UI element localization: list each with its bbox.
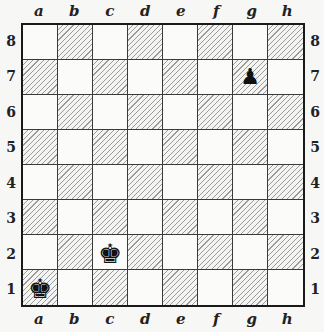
- black-king-icon[interactable]: ♚: [28, 275, 52, 302]
- square-b6[interactable]: [58, 95, 93, 130]
- rank-label: 4: [307, 165, 323, 201]
- square-h6[interactable]: [268, 95, 303, 130]
- chess-board: ♟♚♚: [21, 23, 305, 307]
- square-g2[interactable]: [233, 235, 268, 270]
- square-f5[interactable]: [198, 130, 233, 165]
- square-e3[interactable]: [163, 200, 198, 235]
- square-e5[interactable]: [163, 130, 198, 165]
- square-h7[interactable]: [268, 60, 303, 95]
- file-label: d: [128, 2, 164, 20]
- file-labels-top: a b c d e f g h: [21, 2, 305, 20]
- rank-label: 2: [3, 236, 19, 272]
- file-label: h: [270, 2, 306, 20]
- square-a8[interactable]: [23, 25, 58, 60]
- square-c8[interactable]: [93, 25, 128, 60]
- square-h8[interactable]: [268, 25, 303, 60]
- rank-labels-left: 8 7 6 5 4 3 2 1: [3, 23, 19, 307]
- square-g4[interactable]: [233, 165, 268, 200]
- file-label: h: [270, 310, 306, 328]
- square-b4[interactable]: [58, 165, 93, 200]
- square-b1[interactable]: [58, 270, 93, 305]
- file-label: c: [92, 310, 128, 328]
- file-label: c: [92, 2, 128, 20]
- file-label: g: [234, 310, 270, 328]
- square-b5[interactable]: [58, 130, 93, 165]
- square-e7[interactable]: [163, 60, 198, 95]
- file-label: a: [21, 2, 57, 20]
- black-pawn-icon[interactable]: ♟: [240, 66, 260, 88]
- file-label: f: [199, 310, 235, 328]
- file-label: e: [163, 310, 199, 328]
- square-d5[interactable]: [128, 130, 163, 165]
- square-f7[interactable]: [198, 60, 233, 95]
- black-king-icon[interactable]: ♚: [98, 240, 122, 267]
- square-d1[interactable]: [128, 270, 163, 305]
- square-g3[interactable]: [233, 200, 268, 235]
- square-a2[interactable]: [23, 235, 58, 270]
- rank-label: 3: [3, 201, 19, 237]
- rank-label: 2: [307, 236, 323, 272]
- square-d3[interactable]: [128, 200, 163, 235]
- square-a3[interactable]: [23, 200, 58, 235]
- square-f8[interactable]: [198, 25, 233, 60]
- file-label: b: [57, 310, 93, 328]
- file-label: a: [21, 310, 57, 328]
- square-b3[interactable]: [58, 200, 93, 235]
- square-g6[interactable]: [233, 95, 268, 130]
- rank-label: 6: [307, 94, 323, 130]
- square-h4[interactable]: [268, 165, 303, 200]
- square-c1[interactable]: [93, 270, 128, 305]
- square-b2[interactable]: [58, 235, 93, 270]
- square-a1[interactable]: ♚: [23, 270, 58, 305]
- square-d2[interactable]: [128, 235, 163, 270]
- square-h3[interactable]: [268, 200, 303, 235]
- square-c3[interactable]: [93, 200, 128, 235]
- square-g8[interactable]: [233, 25, 268, 60]
- square-g5[interactable]: [233, 130, 268, 165]
- square-f2[interactable]: [198, 235, 233, 270]
- square-h5[interactable]: [268, 130, 303, 165]
- square-h1[interactable]: [268, 270, 303, 305]
- file-label: f: [199, 2, 235, 20]
- square-e6[interactable]: [163, 95, 198, 130]
- file-label: e: [163, 2, 199, 20]
- square-g1[interactable]: [233, 270, 268, 305]
- rank-label: 1: [3, 272, 19, 308]
- file-label: d: [128, 310, 164, 328]
- square-c4[interactable]: [93, 165, 128, 200]
- square-f1[interactable]: [198, 270, 233, 305]
- rank-label: 1: [307, 272, 323, 308]
- square-f6[interactable]: [198, 95, 233, 130]
- square-e2[interactable]: [163, 235, 198, 270]
- square-e1[interactable]: [163, 270, 198, 305]
- square-e4[interactable]: [163, 165, 198, 200]
- rank-label: 7: [307, 59, 323, 95]
- square-a7[interactable]: [23, 60, 58, 95]
- rank-label: 8: [3, 23, 19, 59]
- rank-label: 5: [307, 130, 323, 166]
- rank-labels-right: 8 7 6 5 4 3 2 1: [307, 23, 323, 307]
- rank-label: 7: [3, 59, 19, 95]
- square-a4[interactable]: [23, 165, 58, 200]
- square-h2[interactable]: [268, 235, 303, 270]
- square-c2[interactable]: ♚: [93, 235, 128, 270]
- square-c5[interactable]: [93, 130, 128, 165]
- square-e8[interactable]: [163, 25, 198, 60]
- file-label: b: [57, 2, 93, 20]
- rank-label: 8: [307, 23, 323, 59]
- square-c6[interactable]: [93, 95, 128, 130]
- square-d6[interactable]: [128, 95, 163, 130]
- square-b7[interactable]: [58, 60, 93, 95]
- square-d4[interactable]: [128, 165, 163, 200]
- square-f3[interactable]: [198, 200, 233, 235]
- square-f4[interactable]: [198, 165, 233, 200]
- square-g7[interactable]: ♟: [233, 60, 268, 95]
- file-labels-bottom: a b c d e f g h: [21, 310, 305, 328]
- file-label: g: [234, 2, 270, 20]
- square-a6[interactable]: [23, 95, 58, 130]
- square-a5[interactable]: [23, 130, 58, 165]
- square-b8[interactable]: [58, 25, 93, 60]
- square-c7[interactable]: [93, 60, 128, 95]
- square-d7[interactable]: [128, 60, 163, 95]
- square-d8[interactable]: [128, 25, 163, 60]
